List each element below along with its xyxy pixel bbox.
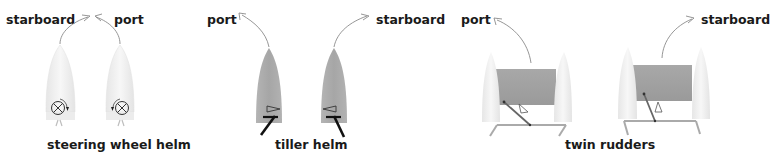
turn-arrow-port xyxy=(242,15,269,47)
label-port: port xyxy=(114,12,144,27)
trampoline-deck xyxy=(496,69,556,105)
panel-twin-rudders: port starboard xyxy=(461,12,770,152)
label-port: port xyxy=(461,12,491,27)
turn-arrow-port xyxy=(497,20,531,63)
rudder-icon xyxy=(519,104,528,113)
label-starboard: starboard xyxy=(376,12,445,27)
panel-tiller-helm: port starboard tiller helm xyxy=(207,12,445,152)
tiller-bar xyxy=(504,102,530,125)
steering-diagram: starboard port xyxy=(0,0,770,160)
caption-tiller-helm: tiller helm xyxy=(275,137,348,152)
turn-arrow-starboard xyxy=(662,19,692,58)
label-starboard: starboard xyxy=(6,12,75,27)
turn-arrow-starboard xyxy=(334,16,367,47)
caption-steering-wheel-helm: steering wheel helm xyxy=(47,137,191,152)
label-port: port xyxy=(207,12,237,27)
label-starboard: starboard xyxy=(701,12,770,27)
catamaran-port xyxy=(482,52,572,136)
rudder-icon xyxy=(655,102,662,112)
panel-steering-wheel-helm: starboard port xyxy=(6,12,191,152)
trampoline-deck xyxy=(632,65,692,101)
caption-twin-rudders: twin rudders xyxy=(565,137,655,152)
catamaran-starboard xyxy=(618,47,710,135)
